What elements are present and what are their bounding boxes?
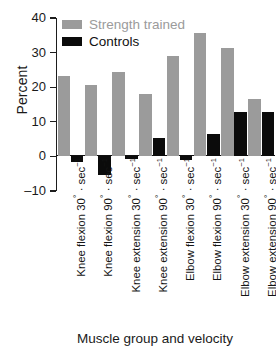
legend-swatch-icon-strength-trained	[62, 20, 82, 29]
y-tick-mark	[50, 52, 56, 53]
bar-strength-trained	[248, 99, 261, 156]
bar-strength-trained	[194, 33, 207, 157]
x-category-label: Knee flexion 30° · sec−1	[75, 158, 87, 298]
bar-controls	[234, 112, 247, 156]
legend: Strength trained Controls	[62, 17, 232, 51]
bar-controls	[153, 138, 166, 156]
legend-item-strength-trained: Strength trained	[62, 17, 232, 32]
bar-controls	[262, 112, 275, 156]
x-axis-title: Muscle group and velocity	[40, 331, 270, 346]
y-tick-label: 0	[8, 148, 46, 163]
legend-swatch-icon-controls	[62, 37, 82, 46]
x-category-label: Elbow flexion 30° · sec−1	[184, 158, 196, 298]
bar-controls	[207, 134, 220, 156]
y-tick-mark	[50, 156, 56, 157]
legend-label-controls: Controls	[89, 35, 139, 49]
bar-strength-trained	[221, 48, 234, 156]
x-category-label: Knee flexion 90° · sec−1	[102, 158, 114, 298]
x-category-label: Elbow flexion 90° · sec−1	[211, 158, 223, 298]
x-category-label: Knee extension 30° · sec−1	[130, 158, 142, 298]
legend-item-controls: Controls	[62, 34, 232, 49]
y-tick-label: 10	[8, 114, 46, 129]
y-tick-mark	[50, 17, 56, 18]
bar-strength-trained	[85, 85, 98, 157]
x-category-label: Knee extension 90° · sec−1	[157, 158, 169, 298]
x-category-label: Elbow extension 30° · sec−1	[239, 158, 251, 298]
y-tick-label: 40	[8, 10, 46, 25]
y-tick-label: 30	[8, 45, 46, 60]
y-tick-label: –10	[8, 183, 46, 198]
bar-strength-trained	[167, 56, 180, 156]
y-tick-mark	[50, 121, 56, 122]
x-category-label: Elbow extension 90° · sec−1	[266, 158, 276, 298]
bar-strength-trained	[112, 72, 125, 156]
x-axis-category-labels: Knee flexion 30° · sec−1Knee flexion 90°…	[57, 158, 275, 308]
bar-chart-figure: Percent 403020100–10 Strength trained Co…	[0, 0, 276, 361]
y-tick-mark	[50, 190, 56, 191]
bar-strength-trained	[139, 94, 152, 156]
y-tick-label: 20	[8, 79, 46, 94]
bar-strength-trained	[58, 76, 71, 156]
y-tick-mark	[50, 87, 56, 88]
legend-label-strength-trained: Strength trained	[89, 18, 185, 32]
